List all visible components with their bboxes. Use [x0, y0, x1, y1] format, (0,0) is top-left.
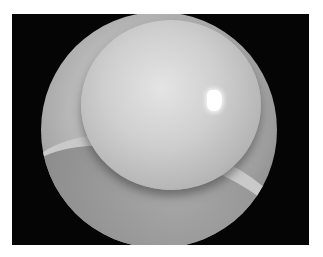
photo-frame — [12, 14, 309, 245]
dome-lesion — [81, 20, 261, 190]
specular-highlight — [207, 90, 222, 111]
eye-globe — [41, 14, 277, 245]
